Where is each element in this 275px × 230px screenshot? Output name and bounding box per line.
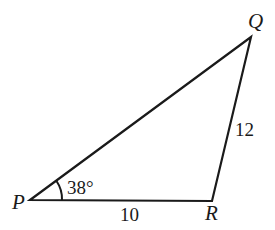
side-label-pr: 10 — [120, 204, 139, 225]
triangle-diagram: P Q R 10 12 38° — [0, 0, 275, 230]
vertex-label-q: Q — [248, 9, 263, 33]
angle-arc-p — [57, 181, 63, 200]
side-label-rq: 12 — [235, 119, 254, 140]
vertex-label-p: P — [11, 190, 25, 214]
angle-label-p: 38° — [67, 177, 94, 198]
triangle-pqr — [30, 37, 251, 201]
vertex-label-r: R — [204, 201, 218, 225]
